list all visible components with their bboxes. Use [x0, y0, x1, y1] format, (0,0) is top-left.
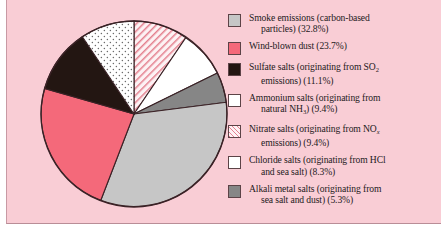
legend-label-sulfate-salts: Sulfate salts (originating from SO2 emis… — [249, 61, 379, 87]
legend-item-nitrate-salts: Nitrate salts (originating from NOx emis… — [228, 123, 438, 149]
legend-label-nitrate-salts: Nitrate salts (originating from NOx emis… — [249, 123, 379, 149]
subscript-2: 2 — [376, 66, 379, 73]
legend-line-1: Sulfate salts (originating from SO — [249, 61, 376, 72]
legend-item-smoke-emissions: Smoke emissions (carbon-based particles)… — [228, 12, 438, 35]
ammonium-dotted-swatch — [228, 94, 241, 107]
subscript-x: x — [377, 128, 380, 135]
chloride-white-swatch — [228, 156, 241, 169]
legend-line-1: Wind-blown dust (23.7%) — [249, 40, 347, 51]
alkali-gray-swatch — [228, 185, 241, 198]
legend-line-2: emissions) (9.4%) — [249, 137, 379, 148]
nitrate-hatched-swatch — [228, 125, 241, 138]
chart-legend: Smoke emissions (carbon-based particles)… — [228, 12, 438, 211]
legend-line-1: Chloride salts (originating from HCl — [249, 154, 386, 165]
legend-line-1: Ammonium salts (originating from — [249, 92, 380, 103]
legend-label-chloride-salts: Chloride salts (originating from HCl and… — [249, 154, 386, 177]
pie-chart-figure: Smoke emissions (carbon-based particles)… — [0, 0, 441, 234]
legend-line-2: and sea salt) (8.3%) — [249, 166, 386, 177]
legend-label-smoke-emissions: Smoke emissions (carbon-based particles)… — [249, 12, 370, 35]
legend-item-alkali-metal-salts: Alkali metal salts (originating from sea… — [228, 183, 438, 206]
legend-label-wind-blown-dust: Wind-blown dust (23.7%) — [249, 40, 347, 51]
legend-item-chloride-salts: Chloride salts (originating from HCl and… — [228, 154, 438, 177]
legend-line-1: Smoke emissions (carbon-based — [249, 12, 370, 23]
legend-label-ammonium-salts: Ammonium salts (originating from natural… — [249, 92, 380, 118]
legend-line-1: Alkali metal salts (originating from — [249, 183, 381, 194]
pie-chart — [40, 20, 228, 208]
legend-line-2-post: ) (9.4%) — [306, 103, 337, 114]
legend-line-2: sea salt and dust) (5.3%) — [249, 194, 381, 205]
legend-item-sulfate-salts: Sulfate salts (originating from SO2 emis… — [228, 61, 438, 87]
pie-svg — [40, 20, 228, 208]
sulfate-black-swatch — [228, 63, 241, 76]
legend-item-wind-blown-dust: Wind-blown dust (23.7%) — [228, 40, 438, 55]
dust-pink-swatch — [228, 42, 241, 55]
legend-item-ammonium-salts: Ammonium salts (originating from natural… — [228, 92, 438, 118]
legend-line-2: emissions) (11.1%) — [249, 75, 379, 86]
smoke-gray-swatch — [228, 14, 241, 27]
legend-line-2: particles) (32.8%) — [249, 23, 370, 34]
legend-line-2: natural NH3) (9.4%) — [249, 103, 380, 117]
legend-line-1: Nitrate salts (originating from NO — [249, 123, 377, 134]
legend-label-alkali-metal-salts: Alkali metal salts (originating from sea… — [249, 183, 381, 206]
legend-line-2-pre: natural NH — [261, 103, 303, 114]
